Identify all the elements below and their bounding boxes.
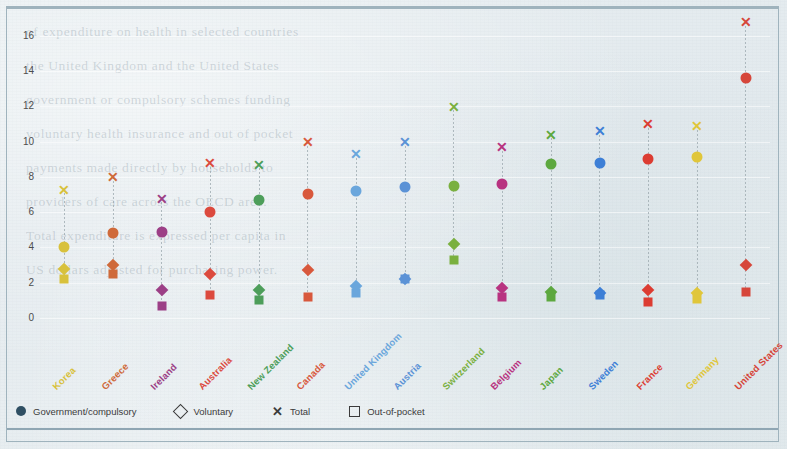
gridline (40, 106, 770, 107)
x-axis-labels: KoreaGreeceIrelandAustraliaNew ZealandCa… (40, 322, 770, 392)
y-axis-tick-label: 8 (10, 171, 34, 182)
x-axis-country-label: Belgium (489, 357, 524, 392)
data-point-circle (594, 157, 605, 168)
connector-stem (599, 131, 600, 295)
open-diamond-icon-glyph (173, 403, 189, 419)
connector-stem (648, 124, 649, 302)
open-square-icon (348, 405, 361, 418)
data-point-square (401, 275, 410, 284)
data-point-square (498, 292, 507, 301)
connector-stem (745, 22, 746, 292)
connector-stem (405, 142, 406, 280)
data-point-cross: ✕ (447, 100, 460, 113)
data-point-circle (400, 182, 411, 193)
y-axis-tick-label: 2 (10, 277, 34, 288)
data-point-square (547, 292, 556, 301)
y-axis-tick-label: 6 (10, 206, 34, 217)
connector-stem (356, 154, 357, 293)
data-point-square (644, 298, 653, 307)
data-point-cross: ✕ (107, 170, 120, 183)
data-point-circle (448, 180, 459, 191)
x-axis-country-label: Canada (294, 359, 327, 392)
chart-legend: Government/compulsoryVoluntary✕TotalOut-… (14, 400, 714, 422)
data-point-circle (108, 228, 119, 239)
x-axis-country-label: Ireland (148, 361, 179, 392)
data-point-cross: ✕ (301, 135, 314, 148)
data-point-circle (740, 73, 751, 84)
y-axis-tick-label: 12 (10, 100, 34, 111)
data-point-circle (546, 159, 557, 170)
gridline (40, 36, 770, 37)
data-point-square (352, 289, 361, 298)
data-point-square (157, 301, 166, 310)
legend-item-label: Voluntary (193, 406, 233, 417)
data-point-diamond (58, 262, 71, 275)
data-point-cross: ✕ (642, 117, 655, 130)
gridline (40, 318, 770, 319)
data-point-diamond (739, 259, 752, 272)
data-point-cross: ✕ (545, 128, 558, 141)
x-axis-country-label: New Zealand (245, 342, 295, 392)
data-point-circle (59, 242, 70, 253)
x-axis-country-label: Japan (537, 364, 565, 392)
legend-item-label: Out-of-pocket (367, 406, 425, 417)
data-point-circle (254, 194, 265, 205)
open-square-icon-glyph (349, 406, 360, 417)
y-axis-tick-label: 16 (10, 30, 34, 41)
x-axis-country-label: Switzerland (440, 345, 487, 392)
legend-item: Voluntary (174, 405, 233, 418)
data-point-circle (156, 226, 167, 237)
x-axis-country-label: Sweden (586, 358, 620, 392)
plot-area: 0246810121416✕✕✕✕✕✕✕✕✕✕✕✕✕✕✕ (40, 18, 770, 318)
bottom-rule (7, 428, 778, 430)
data-point-square (206, 291, 215, 300)
data-point-cross: ✕ (58, 183, 71, 196)
data-point-circle (643, 154, 654, 165)
data-point-diamond (155, 283, 168, 296)
x-axis-country-label: Korea (51, 364, 79, 392)
data-point-square (109, 269, 118, 278)
data-point-circle (692, 152, 703, 163)
x-axis-country-label: Greece (99, 361, 130, 392)
legend-item: ✕Total (271, 405, 310, 418)
y-axis-tick-label: 14 (10, 65, 34, 76)
data-point-cross: ✕ (253, 158, 266, 171)
x-axis-country-label: France (635, 361, 666, 392)
data-point-square (449, 255, 458, 264)
legend-item-label: Government/compulsory (33, 406, 136, 417)
y-axis-tick-label: 0 (10, 312, 34, 323)
y-axis-tick-label: 4 (10, 241, 34, 252)
cross-icon-glyph: ✕ (272, 405, 283, 418)
data-point-diamond (204, 268, 217, 281)
data-point-cross: ✕ (593, 124, 606, 137)
data-point-circle (302, 189, 313, 200)
data-point-cross: ✕ (496, 140, 509, 153)
data-point-circle (351, 185, 362, 196)
filled-circle-icon (14, 405, 27, 418)
data-point-circle (205, 207, 216, 218)
x-axis-country-label: Australia (197, 354, 235, 392)
data-point-circle (497, 178, 508, 189)
data-point-diamond (642, 283, 655, 296)
data-point-square (741, 287, 750, 296)
gridline (40, 71, 770, 72)
data-point-cross: ✕ (155, 192, 168, 205)
y-axis-tick-label: 10 (10, 136, 34, 147)
data-point-cross: ✕ (204, 156, 217, 169)
data-point-square (693, 294, 702, 303)
connector-stem (259, 164, 260, 300)
x-axis-country-label: Germany (683, 354, 721, 392)
legend-item-label: Total (290, 406, 310, 417)
filled-circle-icon-glyph (16, 406, 26, 416)
data-point-cross: ✕ (350, 147, 363, 160)
data-point-diamond (301, 264, 314, 277)
cross-icon: ✕ (271, 405, 284, 418)
top-rule (7, 7, 778, 9)
data-point-diamond (253, 283, 266, 296)
data-point-square (303, 292, 312, 301)
legend-item: Government/compulsory (14, 405, 136, 418)
data-point-square (255, 296, 264, 305)
data-point-cross: ✕ (739, 15, 752, 28)
open-diamond-icon (174, 405, 187, 418)
x-axis-country-label: Austria (391, 360, 423, 392)
